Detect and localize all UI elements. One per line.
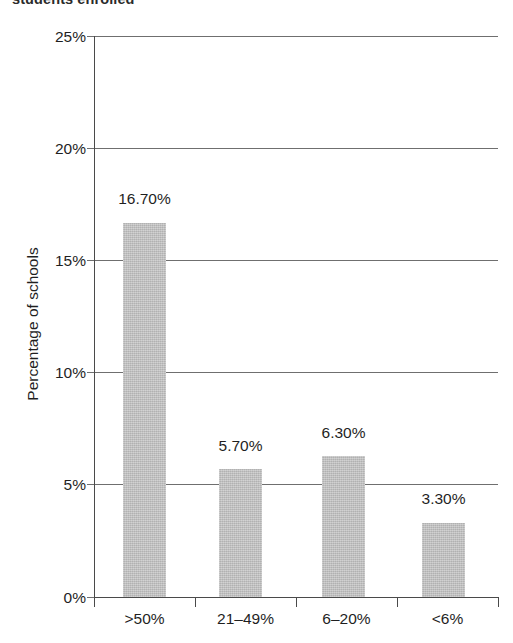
y-tick-label-25: 25%	[34, 29, 86, 45]
x-tick-mark-4	[498, 597, 499, 607]
bar-2[interactable]	[322, 456, 365, 597]
y-tick-label-20: 20%	[34, 141, 86, 157]
x-tick-label-0: >50%	[94, 610, 195, 628]
y-axis-title: Percentage of schools	[24, 214, 42, 434]
gridline-25	[94, 36, 498, 37]
x-tick-mark-1	[195, 597, 196, 607]
bar-chart: Percentage of schools 25% 20% 15% 10% 5%…	[0, 0, 513, 643]
y-tick-label-0: 0%	[34, 590, 86, 606]
x-tick-label-2: 6–20%	[296, 610, 397, 628]
x-tick-label-1: 21–49%	[195, 610, 296, 628]
x-tick-label-3: <6%	[397, 610, 498, 628]
bar-0[interactable]	[123, 223, 166, 597]
bar-value-0: 16.70%	[99, 190, 190, 208]
y-axis-line	[94, 36, 95, 597]
y-tick-label-10: 10%	[34, 365, 86, 381]
y-tick-label-15: 15%	[34, 253, 86, 269]
x-tick-mark-3	[397, 597, 398, 607]
y-tick-label-5: 5%	[34, 477, 86, 493]
bar-value-3: 3.30%	[398, 490, 489, 508]
bar-3[interactable]	[422, 523, 465, 597]
x-tick-mark-0	[94, 597, 95, 607]
x-tick-mark-2	[296, 597, 297, 607]
bar-1[interactable]	[219, 469, 262, 597]
bar-value-2: 6.30%	[298, 424, 389, 442]
bar-value-1: 5.70%	[195, 437, 286, 455]
gridline-20	[94, 148, 498, 149]
